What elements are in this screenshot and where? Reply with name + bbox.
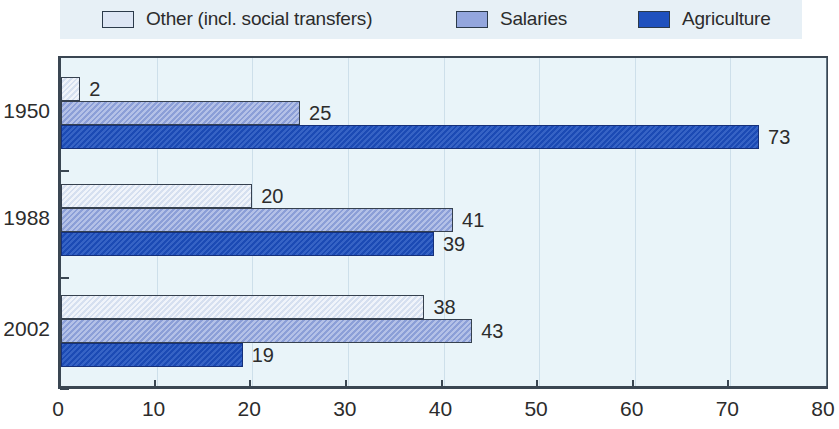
bar-2002-other[interactable] bbox=[61, 295, 424, 319]
x-axis-tick bbox=[632, 380, 634, 389]
legend-swatch-icon-agriculture bbox=[638, 11, 670, 28]
bar-value-label: 20 bbox=[261, 185, 283, 208]
value-axis: 01020304050607080 bbox=[58, 389, 828, 429]
legend-label-salaries: Salaries bbox=[500, 8, 567, 30]
x-axis-tick bbox=[727, 380, 729, 389]
x-axis-tick bbox=[536, 380, 538, 389]
x-axis-tick bbox=[441, 380, 443, 389]
bar-value-label: 39 bbox=[443, 233, 465, 256]
x-axis-tick-label: 30 bbox=[333, 397, 356, 421]
legend-label-agriculture: Agriculture bbox=[682, 8, 771, 30]
bar-2002-salaries[interactable] bbox=[61, 319, 472, 343]
bar-value-label: 41 bbox=[462, 209, 484, 232]
x-axis-tick-label: 80 bbox=[811, 397, 834, 421]
bar-1950-agriculture[interactable] bbox=[61, 125, 759, 149]
legend-swatch-icon-other bbox=[102, 11, 134, 28]
legend-swatch-icon-salaries bbox=[456, 11, 488, 28]
category-axis-labels: 195019882002 bbox=[0, 56, 50, 389]
bars-layer: 22573204139384319 bbox=[61, 58, 826, 386]
bar-value-label: 19 bbox=[252, 344, 274, 367]
legend: Other (incl. social transfers) Salaries … bbox=[60, 0, 802, 39]
bar-1950-salaries[interactable] bbox=[61, 101, 300, 125]
legend-item-other[interactable]: Other (incl. social transfers) bbox=[102, 8, 372, 30]
bar-1988-salaries[interactable] bbox=[61, 208, 453, 232]
category-label-1988: 1988 bbox=[3, 206, 50, 230]
category-axis-tick bbox=[60, 170, 69, 172]
x-axis-tick-label: 60 bbox=[620, 397, 643, 421]
bar-1988-other[interactable] bbox=[61, 184, 252, 208]
bar-1988-agriculture[interactable] bbox=[61, 232, 434, 256]
x-axis-tick-label: 10 bbox=[142, 397, 165, 421]
legend-label-other: Other (incl. social transfers) bbox=[146, 8, 372, 30]
plot-area: 22573204139384319 bbox=[58, 56, 828, 389]
bar-value-label: 38 bbox=[433, 296, 455, 319]
bar-2002-agriculture[interactable] bbox=[61, 343, 243, 367]
x-axis-tick-label: 40 bbox=[429, 397, 452, 421]
category-label-1950: 1950 bbox=[3, 99, 50, 123]
x-axis-tick-label: 0 bbox=[52, 397, 64, 421]
x-axis-tick bbox=[249, 380, 251, 389]
x-axis-tick bbox=[154, 380, 156, 389]
bar-value-label: 25 bbox=[309, 102, 331, 125]
grouped-bar-chart: Other (incl. social transfers) Salaries … bbox=[0, 0, 839, 429]
bar-1950-other[interactable] bbox=[61, 77, 80, 101]
x-axis-tick-label: 50 bbox=[524, 397, 547, 421]
bar-value-label: 43 bbox=[481, 320, 503, 343]
bar-value-label: 2 bbox=[89, 78, 100, 101]
gridline bbox=[826, 58, 827, 386]
x-axis-tick bbox=[345, 380, 347, 389]
legend-item-salaries[interactable]: Salaries bbox=[456, 8, 567, 30]
bar-value-label: 73 bbox=[768, 126, 790, 149]
x-axis-tick-label: 70 bbox=[716, 397, 739, 421]
x-axis-tick-label: 20 bbox=[238, 397, 261, 421]
legend-item-agriculture[interactable]: Agriculture bbox=[638, 8, 771, 30]
category-label-2002: 2002 bbox=[3, 317, 50, 341]
category-axis-tick bbox=[60, 277, 69, 279]
